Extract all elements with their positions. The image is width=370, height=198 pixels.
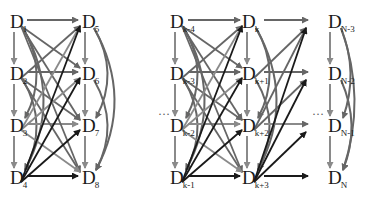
node-subscript: k-3 [183,76,195,86]
node-base: D [242,11,256,32]
node-dk-1: Dk-1 [170,168,195,187]
node-base: D [10,63,24,84]
node-dk+1: Dk+1 [242,64,269,83]
edge-arrow [21,130,80,182]
node-dk-2: Dk-2 [170,116,195,135]
node-subscript: k-2 [183,128,195,138]
node-subscript: N-1 [341,128,355,138]
node-subscript: 6 [95,76,100,86]
node-subscript: 2 [23,76,28,86]
node-subscript: N-2 [341,76,355,86]
node-base: D [328,11,342,32]
node-dn-2: DN-2 [328,64,355,83]
node-dk+2: Dk+2 [242,116,269,135]
node-d6: D6 [82,64,99,83]
node-subscript: k+1 [255,76,269,86]
node-base: D [170,115,184,136]
node-d3: D3 [10,116,27,135]
node-subscript: k [255,24,260,34]
node-dn-1: DN-1 [328,116,355,135]
node-subscript: N [341,180,348,190]
node-base: D [82,167,96,188]
node-subscript: k+2 [255,128,269,138]
node-base: D [10,115,24,136]
node-subscript: 4 [23,180,28,190]
node-base: D [82,11,96,32]
node-dk: Dk [242,12,259,31]
node-d2: D2 [10,64,27,83]
node-subscript: k+3 [255,180,269,190]
node-dn-3: DN-3 [328,12,355,31]
node-d8: D8 [82,168,99,187]
node-d4: D4 [10,168,27,187]
node-base: D [170,63,184,84]
node-subscript: 1 [23,24,28,34]
node-dk+3: Dk+3 [242,168,269,187]
node-dk-3: Dk-3 [170,64,195,83]
node-d1: D1 [10,12,27,31]
node-d5: D5 [82,12,99,31]
node-dk-4: Dk-4 [170,12,195,31]
node-dn: DN [328,168,347,187]
node-subscript: k-4 [183,24,195,34]
node-base: D [10,11,24,32]
node-base: D [170,167,184,188]
node-base: D [242,115,256,136]
dense-block-diagram: … … D1 D2 D3 D4 D5 D6 D7 D8 Dk-4 Dk-3 Dk… [0,0,370,198]
ellipsis-right: … [312,104,325,119]
node-subscript: 7 [95,128,100,138]
node-subscript: 5 [95,24,100,34]
node-base: D [328,115,342,136]
node-d7: D7 [82,116,99,135]
node-subscript: 8 [95,180,100,190]
node-base: D [328,63,342,84]
node-base: D [242,63,256,84]
node-base: D [242,167,256,188]
node-base: D [82,63,96,84]
node-subscript: 3 [23,128,28,138]
node-base: D [10,167,24,188]
node-subscript: k-1 [183,180,195,190]
edge-arrow [254,28,306,182]
node-base: D [328,167,342,188]
node-base: D [170,11,184,32]
edge-arrow [21,26,80,78]
node-subscript: N-3 [341,24,355,34]
node-base: D [82,115,96,136]
